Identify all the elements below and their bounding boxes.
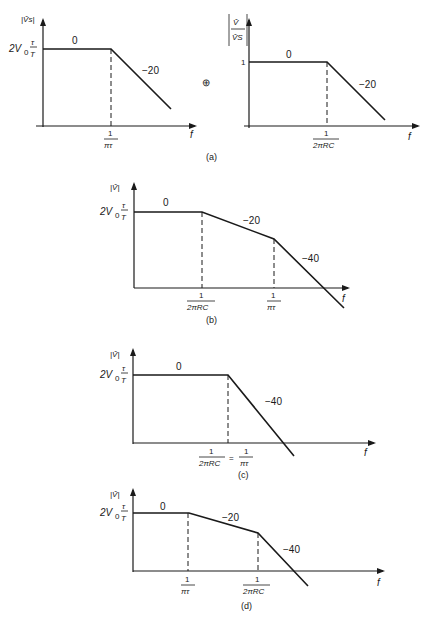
y-axis-label: |V̂| <box>110 183 120 192</box>
svg-text:2πRC: 2πRC <box>312 141 335 150</box>
caption-d: (d) <box>241 601 252 611</box>
svg-text:2πRC: 2πRC <box>242 587 265 596</box>
y-level-label: 2V 0 τ T <box>99 201 128 222</box>
breakpoint-label-2: 1 2πRC <box>242 575 270 596</box>
y-axis-label: V̂ V̂S <box>229 14 247 46</box>
svg-text:V̂: V̂ <box>233 18 239 27</box>
svg-text:2πRC: 2πRC <box>186 303 209 312</box>
svg-text:2V: 2V <box>99 369 114 380</box>
caption-a: (a) <box>206 152 217 162</box>
svg-text:τ: τ <box>122 201 126 210</box>
asymptote-curve <box>249 62 385 120</box>
svg-text:πτ: πτ <box>181 587 190 596</box>
svg-text:1: 1 <box>209 447 214 456</box>
breakpoint-label: 1 πτ <box>104 129 118 150</box>
convolution-operator-symbol: ⊕ <box>202 77 210 88</box>
asymptote-curve <box>43 49 171 109</box>
slope-label-0: 0 <box>72 35 78 46</box>
svg-text:2V: 2V <box>99 507 114 518</box>
panel-b: |V̂| 2V 0 τ T 0 −20 −40 1 2πRC 1 πτ f (b… <box>99 183 348 325</box>
panel-a-left: |V̂s| 2V 0 τ T 0 −20 1 πτ f <box>8 15 195 150</box>
svg-text:τ: τ <box>122 502 126 511</box>
svg-text:τ: τ <box>122 364 126 373</box>
svg-text:1: 1 <box>199 291 204 300</box>
x-axis-label: f <box>364 447 368 458</box>
svg-text:2V: 2V <box>99 206 114 217</box>
asymptote-curve <box>133 375 294 456</box>
svg-text:T: T <box>121 514 127 523</box>
breakpoint-label: 1 2πRC = 1 πτ <box>198 447 253 468</box>
panel-c: |V̂| 2V 0 τ T 0 −40 1 2πRC = 1 πτ f (c) <box>99 350 374 480</box>
slope-label-0: 0 <box>160 501 166 512</box>
svg-text:0: 0 <box>24 48 29 57</box>
slope-label-m20: −20 <box>243 215 260 226</box>
x-axis-label: f <box>377 577 381 588</box>
asymptote-curve <box>133 513 308 586</box>
bode-diagram-figure: |V̂s| 2V 0 τ T 0 −20 1 πτ f ⊕ (a) V̂ V̂S <box>0 0 425 621</box>
x-axis-label: f <box>190 129 194 140</box>
breakpoint-label-1: 1 2πRC <box>186 291 215 312</box>
slope-label-m20: −20 <box>142 65 159 76</box>
x-axis-label: f <box>342 293 346 304</box>
y-axis-label: |V̂| <box>110 350 120 359</box>
slope-label-0: 0 <box>163 197 169 208</box>
svg-text:1: 1 <box>271 291 276 300</box>
svg-text:2V: 2V <box>8 43 23 54</box>
svg-text:0: 0 <box>115 374 120 383</box>
svg-text:πτ: πτ <box>240 459 249 468</box>
svg-text:=: = <box>229 454 234 463</box>
slope-label-m40: −40 <box>265 396 282 407</box>
caption-c: (c) <box>238 470 249 480</box>
svg-text:1: 1 <box>108 129 113 138</box>
slope-label-0: 0 <box>286 49 292 60</box>
y-level-label: 2V 0 τ T <box>99 364 128 385</box>
svg-text:1: 1 <box>324 129 329 138</box>
svg-text:T: T <box>121 376 127 385</box>
svg-text:πτ: πτ <box>104 141 113 150</box>
breakpoint-label: 1 2πRC <box>312 129 339 150</box>
svg-text:V̂S: V̂S <box>232 33 243 42</box>
slope-label-m20: −20 <box>359 79 376 90</box>
svg-text:τ: τ <box>31 38 35 47</box>
svg-text:0: 0 <box>115 211 120 220</box>
caption-b: (b) <box>206 315 217 325</box>
y-level-label: 2V 0 τ T <box>8 38 37 59</box>
svg-text:2πRC: 2πRC <box>198 459 221 468</box>
svg-text:1: 1 <box>185 575 190 584</box>
y-axis-label: |V̂| <box>110 490 120 499</box>
slope-label-m40: −40 <box>283 544 300 555</box>
y-axis-label: |V̂s| <box>21 15 35 24</box>
panel-d: |V̂| 2V 0 τ T 0 −20 −40 1 πτ 1 2πRC f (d… <box>99 490 383 611</box>
y-level-label: 1 <box>241 58 246 67</box>
x-axis-label: f <box>408 131 412 142</box>
svg-text:T: T <box>30 50 36 59</box>
svg-text:1: 1 <box>255 575 260 584</box>
y-level-label: 2V 0 τ T <box>99 502 128 523</box>
svg-text:1: 1 <box>244 447 249 456</box>
slope-label-m40: −40 <box>302 253 319 264</box>
svg-text:T: T <box>121 213 127 222</box>
breakpoint-label-2: 1 πτ <box>267 291 281 312</box>
panel-a-right: V̂ V̂S 1 0 −20 1 2πRC f <box>229 14 418 150</box>
breakpoint-label-1: 1 πτ <box>181 575 195 596</box>
svg-text:πτ: πτ <box>267 303 276 312</box>
slope-label-0: 0 <box>176 361 182 372</box>
slope-label-m20: −20 <box>222 512 239 523</box>
svg-text:0: 0 <box>115 512 120 521</box>
